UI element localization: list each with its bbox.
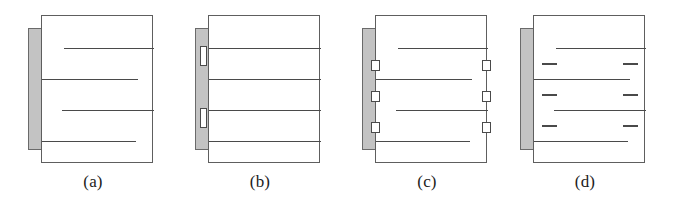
crack-line — [209, 48, 321, 49]
left-edge-square — [371, 60, 380, 71]
left-stub-dash — [542, 63, 557, 65]
crack-line — [556, 48, 646, 49]
crack-line — [62, 110, 154, 111]
left-slab-notch — [200, 46, 207, 66]
panel-a: (a) — [8, 0, 178, 215]
right-edge-square — [482, 60, 491, 71]
crack-line — [42, 141, 136, 142]
crack-line — [396, 110, 488, 111]
crack-line — [398, 48, 488, 49]
crack-line — [534, 79, 630, 80]
panel-caption: (b) — [175, 172, 345, 192]
central-block — [375, 15, 487, 163]
panel-d: (d) — [500, 0, 670, 215]
right-stub-dash — [623, 94, 638, 96]
crack-line — [376, 141, 470, 142]
panel-caption: (c) — [342, 172, 512, 192]
left-edge-square — [371, 91, 380, 102]
figure-canvas: (a)(b)(c)(d) — [0, 0, 675, 215]
panel-b: (b) — [175, 0, 345, 215]
right-edge-square — [482, 122, 491, 133]
right-stub-dash — [623, 63, 638, 65]
left-stub-dash — [542, 125, 557, 127]
central-block — [208, 15, 320, 163]
panel-c: (c) — [342, 0, 512, 215]
crack-line — [209, 110, 321, 111]
left-stub-dash — [542, 94, 557, 96]
right-edge-square — [482, 91, 491, 102]
crack-line — [209, 141, 321, 142]
panel-caption: (d) — [500, 172, 670, 192]
crack-line — [209, 79, 321, 80]
panel-caption: (a) — [8, 172, 178, 192]
central-block — [41, 15, 153, 163]
crack-line — [534, 141, 628, 142]
left-slab-notch — [200, 108, 207, 128]
crack-line — [42, 79, 138, 80]
right-stub-dash — [623, 125, 638, 127]
central-block — [533, 15, 645, 163]
crack-line — [376, 79, 472, 80]
left-edge-square — [371, 122, 380, 133]
crack-line — [64, 48, 154, 49]
crack-line — [554, 110, 646, 111]
